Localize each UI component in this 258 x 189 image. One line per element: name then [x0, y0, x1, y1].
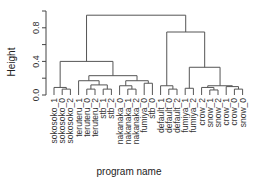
y-axis-label: Height: [6, 47, 17, 76]
dendrogram-branches: [54, 15, 243, 95]
svg-text:0.0: 0.0: [31, 89, 41, 102]
leaf-label: snow_0: [238, 98, 248, 128]
y-tick-labels: 0.00.40.8: [31, 22, 41, 102]
y-axis: [42, 11, 46, 95]
svg-text:0.4: 0.4: [31, 55, 41, 68]
dendrogram-chart: 0.00.40.8 sokosoko_1sokosoko_0sokosoko_2…: [0, 0, 258, 189]
svg-text:0.8: 0.8: [31, 22, 41, 35]
leaf-labels: sokosoko_1sokosoko_0sokosoko_2teruteru_1…: [49, 98, 248, 145]
x-axis-label: program name: [0, 166, 258, 177]
